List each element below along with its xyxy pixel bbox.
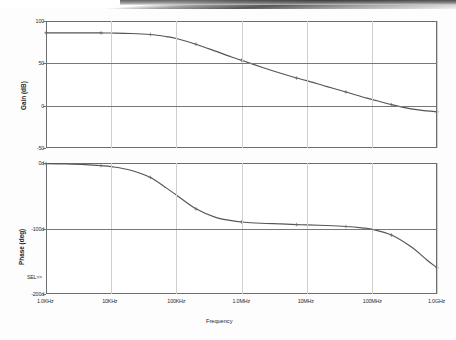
gridline-vertical [242,21,243,148]
y-tick-label: 0d [20,160,44,166]
y-tick-label: 100 [20,18,44,24]
y-tick-label: -50 [20,145,44,151]
y-tick-label: -200d [20,291,44,297]
y-tick-mark [43,21,46,22]
data-point-marker [295,76,299,80]
phase-plot [46,163,437,294]
scanned-page: Gain (dB) 100500-50 Phase (deg) 0d-100d-… [0,0,456,340]
gridline-vertical [437,163,438,294]
scan-edge-artifact-dark [120,0,456,5]
y-tick-label: -100d [20,226,44,232]
gridline-vertical [437,21,438,148]
gridline-vertical [307,21,308,148]
gridline-vertical [372,21,373,148]
x-tick-label: 1.0MHz [233,298,250,304]
y-tick-mark [43,63,46,64]
y-tick-mark [43,106,46,107]
y-tick-mark [43,148,46,149]
data-point-marker [99,31,103,35]
data-point-marker [99,164,103,168]
gridline-horizontal [46,63,437,64]
data-point-marker [194,42,198,46]
x-tick-label: 100KHz [167,298,185,304]
x-tick-label: 1.0GHz [428,298,445,304]
gridline-horizontal [46,106,437,107]
x-tick-label: 100MHz [363,298,382,304]
data-point-marker [295,223,299,227]
phase-axis-title: Phase (deg) [18,229,25,265]
y-tick-label: 50 [20,60,44,66]
gridline-vertical [111,21,112,148]
data-point-marker [344,90,348,94]
data-point-marker [44,31,48,35]
gridline-vertical [176,21,177,148]
y-tick-mark [43,294,46,295]
data-point-marker [149,33,153,37]
gridline-horizontal [46,229,437,230]
y-tick-mark [43,163,46,164]
y-tick-mark [43,229,46,230]
x-tick-label: 10MHz [298,298,314,304]
sel-probe-marker[interactable]: SEL>> [27,274,42,280]
gain-plot [46,21,437,148]
x-axis-title: Frequency [206,318,232,324]
data-point-marker [390,233,394,237]
y-tick-label: 0 [20,103,44,109]
x-tick-label: 10KHz [102,298,117,304]
x-tick-label: 1.0KHz [37,298,53,304]
